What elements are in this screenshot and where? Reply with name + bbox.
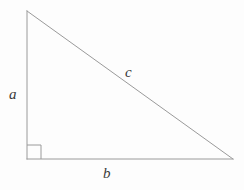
side-label-c: c — [125, 65, 132, 80]
right-triangle-figure: a b c — [0, 0, 244, 190]
side-label-b: b — [103, 166, 111, 181]
right-angle-marker-icon — [27, 145, 41, 159]
side-label-a: a — [9, 87, 17, 102]
hypotenuse-line — [27, 11, 233, 159]
triangle-drawing — [0, 0, 244, 190]
